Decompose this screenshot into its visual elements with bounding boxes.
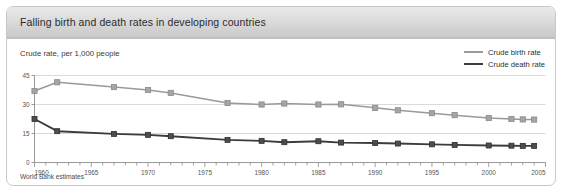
data-point-marker — [259, 102, 264, 107]
data-point-marker — [452, 113, 457, 118]
data-point-marker — [373, 140, 378, 145]
x-axis-tick-label: 1995 — [425, 169, 440, 176]
chart-panel: Falling birth and death rates in develop… — [6, 6, 556, 186]
x-axis-tick-label: 2000 — [482, 169, 497, 176]
data-point-marker — [429, 142, 434, 147]
data-point-marker — [111, 85, 116, 90]
x-axis-tick-label: 1970 — [141, 169, 156, 176]
data-point-marker — [486, 143, 491, 148]
data-point-marker — [225, 137, 230, 142]
data-point-marker — [282, 140, 287, 145]
data-point-marker — [146, 132, 151, 137]
data-point-marker — [452, 142, 457, 147]
data-point-marker — [509, 116, 514, 121]
data-point-marker — [520, 117, 525, 122]
data-point-marker — [145, 87, 150, 92]
data-point-marker — [339, 140, 344, 145]
chart-source-note: World Bank estimates — [20, 173, 84, 180]
data-point-marker — [282, 101, 287, 106]
data-point-marker — [520, 143, 525, 148]
data-point-marker — [55, 80, 60, 85]
data-point-marker — [339, 102, 344, 107]
data-point-marker — [532, 143, 537, 148]
plot-area: 0153045196019651970197519801985199019952… — [7, 7, 556, 186]
x-axis-tick-label: 1965 — [84, 169, 99, 176]
data-point-marker — [395, 141, 400, 146]
y-axis-tick-label: 45 — [22, 72, 30, 79]
y-axis-tick-label: 30 — [22, 101, 30, 108]
data-point-marker — [225, 100, 230, 105]
data-point-marker — [316, 102, 321, 107]
data-point-marker — [373, 105, 378, 110]
x-axis-tick-label: 1980 — [255, 169, 270, 176]
data-point-marker — [168, 134, 173, 139]
data-point-marker — [32, 117, 37, 122]
chart-svg: 0153045196019651970197519801985199019952… — [7, 7, 556, 186]
x-axis-tick-label: 2005 — [531, 169, 546, 176]
x-axis-tick-label: 1975 — [198, 169, 213, 176]
x-axis-tick-label: 1985 — [311, 169, 326, 176]
data-point-marker — [395, 108, 400, 113]
y-axis-tick-label: 0 — [26, 159, 30, 166]
data-point-marker — [55, 129, 60, 134]
data-point-marker — [486, 115, 491, 120]
data-point-marker — [259, 138, 264, 143]
data-point-marker — [316, 139, 321, 144]
data-point-marker — [168, 90, 173, 95]
y-axis-tick-label: 15 — [22, 130, 30, 137]
data-point-marker — [111, 131, 116, 136]
data-point-marker — [429, 111, 434, 116]
data-point-marker — [32, 88, 37, 93]
data-point-marker — [509, 143, 514, 148]
x-axis-tick-label: 1990 — [368, 169, 383, 176]
data-point-marker — [532, 117, 537, 122]
